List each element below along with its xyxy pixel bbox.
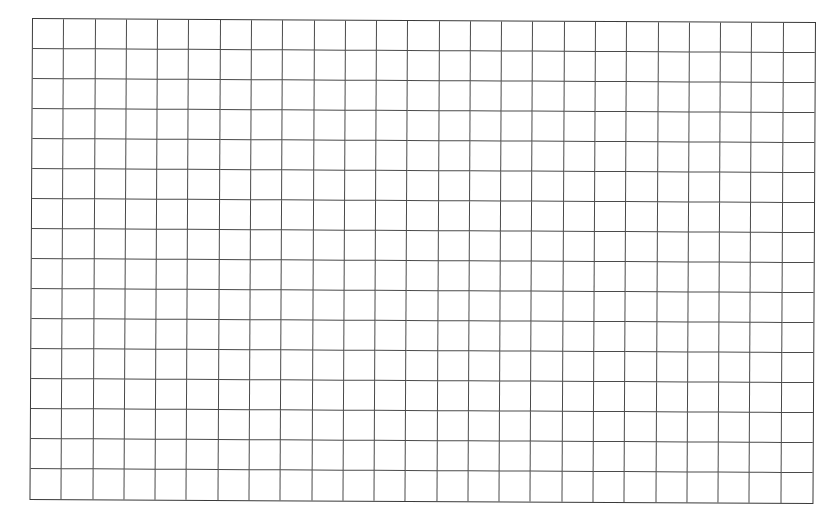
grid-cell — [343, 441, 374, 471]
grid-cell — [345, 231, 376, 261]
grid-cell — [719, 383, 750, 413]
grid-cell — [375, 441, 406, 471]
grid-cell — [533, 22, 564, 52]
grid-cell — [594, 442, 625, 472]
grid-cell — [156, 410, 187, 440]
grid-cell — [407, 171, 438, 201]
grid-cell — [470, 171, 501, 201]
grid-cell — [346, 21, 377, 51]
grid-cell — [720, 143, 751, 173]
grid-cell — [626, 262, 657, 292]
grid-cell — [501, 261, 532, 291]
grid-cell — [313, 350, 344, 380]
grid-cell — [656, 472, 687, 502]
grid-cell — [125, 409, 156, 439]
grid-cell — [250, 410, 281, 440]
grid-cell — [188, 290, 219, 320]
grid-cell — [564, 202, 595, 232]
grid-cell — [750, 443, 781, 473]
grid-cell — [627, 142, 658, 172]
grid-cell — [595, 232, 626, 262]
grid-cell — [438, 261, 469, 291]
grid-cell — [375, 351, 406, 381]
grid-cell — [470, 231, 501, 261]
grid-cell — [219, 380, 250, 410]
grid-cell — [127, 19, 158, 49]
grid-cell — [343, 471, 374, 501]
grid-cell — [501, 141, 532, 171]
grid-cell — [531, 382, 562, 412]
grid-cell — [220, 140, 251, 170]
grid-cell — [469, 411, 500, 441]
grid-cell — [251, 170, 282, 200]
grid-cell — [502, 111, 533, 141]
grid-cell — [626, 292, 657, 322]
grid-cell — [658, 22, 689, 52]
grid-cell — [63, 199, 94, 229]
grid-cell — [220, 80, 251, 110]
grid-cell — [376, 111, 407, 141]
grid-cell — [124, 439, 155, 469]
grid-cell — [470, 201, 501, 231]
grid-cell — [627, 52, 658, 82]
grid-cell — [531, 442, 562, 472]
grid-cell — [220, 50, 251, 80]
grid-cell — [500, 351, 531, 381]
grid-cell — [783, 83, 814, 113]
grid-cell — [627, 112, 658, 142]
grid-cell — [751, 323, 782, 353]
grid-cell — [63, 169, 94, 199]
grid-cell — [62, 409, 93, 439]
grid-cell — [377, 21, 408, 51]
grid-cell — [314, 80, 345, 110]
grid-cell — [94, 319, 125, 349]
grid-cell — [688, 292, 719, 322]
grid-cell — [782, 413, 813, 443]
grid-cell — [752, 113, 783, 143]
grid-cell — [281, 380, 312, 410]
grid-cell — [533, 52, 564, 82]
grid-cell — [156, 380, 187, 410]
grid-cell — [32, 139, 63, 169]
grid-cell — [282, 170, 313, 200]
grid-cell — [564, 142, 595, 172]
grid-cell — [344, 351, 375, 381]
grid-cell — [688, 442, 719, 472]
grid-cell — [657, 292, 688, 322]
grid-cell — [468, 471, 499, 501]
grid-cell — [64, 79, 95, 109]
grid-cell — [64, 19, 95, 49]
grid-cell — [408, 81, 439, 111]
grid-cell — [690, 52, 721, 82]
grid-cell — [532, 352, 563, 382]
grid-cell — [438, 381, 469, 411]
grid-cell — [314, 20, 345, 50]
grid-cell — [720, 233, 751, 263]
grid-cell — [563, 412, 594, 442]
grid-cell — [439, 171, 470, 201]
grid-cell — [219, 350, 250, 380]
grid-cell — [95, 49, 126, 79]
grid-cell — [187, 350, 218, 380]
grid-cell — [283, 80, 314, 110]
grid-cell — [657, 262, 688, 292]
grid-cell — [533, 82, 564, 112]
grid-cell — [282, 290, 313, 320]
grid-cell — [376, 231, 407, 261]
grid-cell — [721, 53, 752, 83]
grid-cell — [250, 440, 281, 470]
grid-cell — [656, 442, 687, 472]
grid-cell — [157, 290, 188, 320]
grid-cell — [531, 412, 562, 442]
grid-cell — [218, 470, 249, 500]
grid-cell — [31, 409, 62, 439]
grid-cell — [93, 409, 124, 439]
grid-cell — [721, 23, 752, 53]
grid-cell — [156, 470, 187, 500]
grid-cell — [250, 320, 281, 350]
grid-cell — [406, 471, 437, 501]
grid-cell — [407, 321, 438, 351]
grid-cell — [281, 410, 312, 440]
grid-cell — [376, 141, 407, 171]
grid-cell — [751, 263, 782, 293]
